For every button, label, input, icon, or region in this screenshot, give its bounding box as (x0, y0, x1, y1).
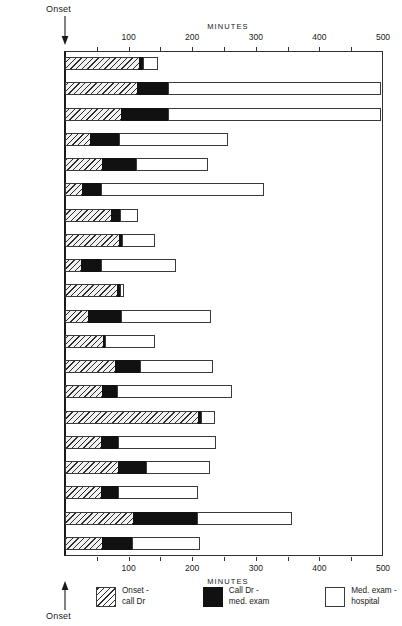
bar-row: Warsaw (0, 304, 402, 329)
axis-tick-mark (224, 557, 225, 561)
legend-label-line1: Med. exam - (351, 586, 397, 597)
bar-segment-med-exam-hospital (101, 259, 176, 272)
bar-segment-med-exam-hospital (118, 486, 198, 499)
onset-top-label: Onset (46, 4, 71, 14)
stacked-bar (65, 512, 292, 525)
stacked-bar (65, 537, 200, 550)
bar-segment-call-dr-med-exam (90, 133, 120, 146)
tick-labels-bottom: 100200300400500 (0, 563, 402, 575)
axis-tick-mark (351, 557, 352, 561)
bar-segment-call-dr-med-exam (137, 82, 169, 95)
bar-segment-onset-call-dr (65, 108, 122, 121)
bar-segment-med-exam-hospital (101, 183, 264, 196)
bar-segment-onset-call-dr (65, 411, 199, 424)
axis-tick-mark (319, 557, 320, 561)
bar-segment-onset-call-dr (65, 284, 118, 297)
bar-segment-med-exam-hospital (122, 234, 155, 247)
legend-swatch-onset (96, 587, 116, 607)
bar-segment-med-exam-hospital (197, 512, 292, 525)
axis-tick-label: 200 (185, 32, 199, 42)
stacked-bar (65, 310, 211, 323)
bar-row-label: Warsaw (0, 310, 62, 320)
tick-marks-bottom (0, 556, 402, 561)
bar-segment-med-exam-hospital (136, 158, 208, 171)
bar-row-label: Lublin (0, 335, 62, 345)
bar-segment-med-exam-hospital (120, 209, 138, 222)
bar-segment-onset-call-dr (65, 82, 138, 95)
bar-segment-med-exam-hospital (120, 284, 124, 297)
stacked-bar (65, 209, 138, 222)
axis-tick-label: 300 (249, 563, 263, 573)
stacked-bar (65, 57, 158, 70)
axis-tick-mark (192, 557, 193, 561)
axis-tick-mark (97, 557, 98, 561)
bar-segment-onset-call-dr (65, 461, 119, 474)
bar-row: Innsbruck (0, 354, 402, 379)
bar-segment-med-exam-hospital (118, 436, 216, 449)
stacked-bar (65, 385, 232, 398)
bar-row-label: Bucharest (0, 108, 62, 118)
bar-segment-onset-call-dr (65, 385, 103, 398)
legend-swatch-call (203, 587, 223, 607)
bar-row: Tampere (0, 278, 402, 303)
legend-label-line2: call Dr (122, 597, 149, 608)
bar-row-label: Heidelberg (0, 184, 62, 194)
stacked-bar (65, 461, 210, 474)
legend-label-call: Call Dr -med. exam (229, 586, 270, 607)
bar-row-label: Sofia (0, 436, 62, 446)
bar-segment-call-dr-med-exam (102, 385, 118, 398)
bar-segment-call-dr-med-exam (133, 512, 199, 525)
bar-segment-med-exam-hospital (143, 57, 158, 70)
legend-label-line1: Call Dr - (229, 586, 270, 597)
chart-root: Onset MINUTES 100200300400500 Gothenburg… (0, 0, 402, 626)
bar-segment-med-exam-hospital (201, 411, 215, 424)
bar-segment-call-dr-med-exam (118, 461, 147, 474)
axis-tick-label: 100 (122, 563, 136, 573)
stacked-bar (65, 133, 228, 146)
bar-row: Tel Aviv (0, 480, 402, 505)
bar-segment-onset-call-dr (65, 310, 89, 323)
bar-row: Total (0, 531, 402, 556)
bar-segment-onset-call-dr (65, 133, 91, 146)
bar-segment-med-exam-hospital (105, 335, 155, 348)
bar-row-label: Dublin (0, 159, 62, 169)
bar-segment-onset-call-dr (65, 537, 103, 550)
axis-tick-label: 300 (249, 32, 263, 42)
bar-segment-med-exam-hospital (117, 385, 232, 398)
bar-segment-onset-call-dr (65, 57, 140, 70)
bar-row-label: London (0, 234, 62, 244)
bar-segment-med-exam-hospital (140, 360, 213, 373)
bar-segment-onset-call-dr (65, 158, 103, 171)
bar-segment-med-exam-hospital (121, 310, 211, 323)
bar-rows: GothenburgPragueBucharestBudapestDublinH… (0, 51, 402, 556)
bar-row-label: Total (0, 537, 62, 547)
onset-arrow-up-icon (61, 580, 69, 610)
legend: Onset -call DrCall Dr -med. examMed. exa… (96, 586, 396, 618)
bar-row: Kaunas (0, 379, 402, 404)
bar-segment-call-dr-med-exam (102, 537, 133, 550)
bar-row-label: Innsbruck (0, 361, 62, 371)
bar-row: Sofia (0, 430, 402, 455)
stacked-bar (65, 486, 198, 499)
bar-segment-onset-call-dr (65, 512, 134, 525)
bar-segment-call-dr-med-exam (101, 486, 119, 499)
bar-row-label: Helsinki (0, 209, 62, 219)
bar-row: Nijmegen (0, 253, 402, 278)
bar-segment-med-exam-hospital (146, 461, 210, 474)
onset-bottom-label: Onset (46, 611, 71, 621)
bar-segment-call-dr-med-exam (82, 183, 102, 196)
bar-row-label: Boden (0, 411, 62, 421)
axis-tick-label: 500 (376, 563, 390, 573)
bar-segment-call-dr-med-exam (101, 436, 119, 449)
bar-segment-call-dr-med-exam (102, 158, 137, 171)
bar-segment-med-exam-hospital (168, 108, 381, 121)
stacked-bar (65, 436, 216, 449)
bar-row: Berlin (0, 506, 402, 531)
bar-row: London (0, 228, 402, 253)
bar-segment-onset-call-dr (65, 486, 102, 499)
bar-segment-call-dr-med-exam (115, 360, 141, 373)
stacked-bar (65, 158, 208, 171)
legend-label-exam: Med. exam -hospital (351, 586, 397, 607)
tick-labels-top: 100200300400500 (0, 32, 402, 44)
bar-row: Dublin (0, 152, 402, 177)
